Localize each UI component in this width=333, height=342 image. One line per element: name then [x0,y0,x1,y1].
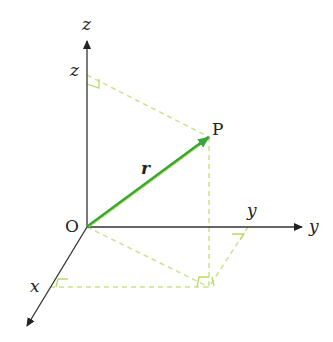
z-tick-label: z [69,60,80,80]
position-vector-r [87,137,209,227]
vector-label: r [141,158,151,178]
point-label: P [212,119,223,139]
right-angle-markers [56,79,244,287]
y-tick-label: y [246,200,257,220]
origin-label: O [65,216,79,236]
position-vector-diagram: z z P r O y y x [0,0,333,342]
axes [27,41,302,326]
x-axis-label: x [30,276,40,296]
y-axis-label: y [308,216,319,236]
z-axis-label: z [81,14,92,34]
